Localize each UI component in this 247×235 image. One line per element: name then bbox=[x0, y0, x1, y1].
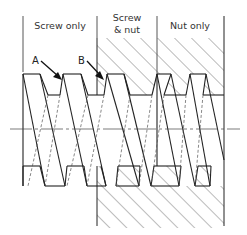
thread-diagram: Screw only Screw & nut Nut only bbox=[0, 0, 247, 235]
callout-b-label: B bbox=[78, 55, 85, 66]
label-nut-only: Nut only bbox=[170, 20, 210, 31]
label-screw-and-nut-line2: & nut bbox=[114, 24, 140, 35]
callout-a-label: A bbox=[32, 55, 39, 66]
nut-body bbox=[97, 38, 224, 228]
callout-a: A bbox=[32, 55, 62, 80]
label-screw-and-nut-line1: Screw bbox=[113, 12, 142, 23]
label-screw-only: Screw only bbox=[34, 20, 86, 31]
